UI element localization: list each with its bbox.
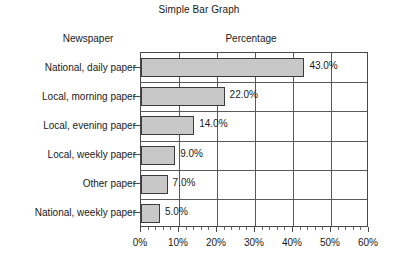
category-axis-tick xyxy=(133,154,140,155)
category-axis-tick xyxy=(133,183,140,184)
value-axis-tick xyxy=(140,227,141,232)
value-axis-minor-tick xyxy=(307,227,308,230)
bar-value-label: 43.0% xyxy=(309,60,337,71)
value-axis-tick xyxy=(368,227,369,232)
value-axis-minor-tick xyxy=(208,227,209,230)
category-label: Local, morning paper xyxy=(0,90,136,101)
value-axis-title: Percentage xyxy=(176,33,326,44)
value-axis-label: 60% xyxy=(348,237,388,248)
value-axis-minor-tick xyxy=(155,227,156,230)
value-axis-minor-tick xyxy=(338,227,339,230)
bar-value-label: 7.0% xyxy=(173,177,196,188)
category-axis-tick xyxy=(133,96,140,97)
value-axis-label: 50% xyxy=(310,237,350,248)
value-axis-minor-tick xyxy=(360,227,361,230)
value-axis-label: 30% xyxy=(234,237,274,248)
value-axis-minor-tick xyxy=(246,227,247,230)
category-label: Local, weekly paper xyxy=(0,149,136,160)
value-axis-minor-tick xyxy=(239,227,240,230)
bar-value-label: 14.0% xyxy=(199,118,227,129)
value-axis-minor-tick xyxy=(353,227,354,230)
bar[interactable] xyxy=(141,87,225,106)
bar-row: 14.0% xyxy=(141,111,367,140)
value-axis-minor-tick xyxy=(300,227,301,230)
value-axis-minor-tick xyxy=(277,227,278,230)
category-label: National, weekly paper xyxy=(0,207,136,218)
bar-row: 22.0% xyxy=(141,82,367,111)
category-axis-tick xyxy=(133,67,140,68)
value-axis-minor-tick xyxy=(201,227,202,230)
value-axis-tick xyxy=(254,227,255,232)
value-axis-label: 40% xyxy=(272,237,312,248)
bar[interactable] xyxy=(141,175,168,194)
bar-value-label: 9.0% xyxy=(180,148,203,159)
category-label: Local, evening paper xyxy=(0,119,136,130)
value-axis-minor-tick xyxy=(224,227,225,230)
category-label: Other paper xyxy=(0,178,136,189)
value-axis-minor-tick xyxy=(322,227,323,230)
value-axis-label: 10% xyxy=(158,237,198,248)
value-axis-minor-tick xyxy=(170,227,171,230)
value-axis-minor-tick xyxy=(284,227,285,230)
chart-title: Simple Bar Graph xyxy=(0,4,398,15)
value-axis-minor-tick xyxy=(231,227,232,230)
value-axis-label: 0% xyxy=(120,237,160,248)
value-axis-label: 20% xyxy=(196,237,236,248)
value-axis-tick xyxy=(330,227,331,232)
value-axis-minor-tick xyxy=(315,227,316,230)
value-axis-minor-tick xyxy=(148,227,149,230)
value-axis-minor-tick xyxy=(262,227,263,230)
bar-value-label: 5.0% xyxy=(165,206,188,217)
bar[interactable] xyxy=(141,58,304,77)
value-axis-minor-tick xyxy=(193,227,194,230)
category-axis-title: Newspaper xyxy=(0,33,176,44)
category-label: National, daily paper xyxy=(0,61,136,72)
category-axis-tick xyxy=(133,125,140,126)
value-axis-tick xyxy=(216,227,217,232)
value-axis-minor-tick xyxy=(269,227,270,230)
bar-value-label: 22.0% xyxy=(230,89,258,100)
bar-row: 7.0% xyxy=(141,170,367,199)
bar-chart-figure: Simple Bar Graph Newspaper Percentage 43… xyxy=(0,0,398,272)
value-axis-minor-tick xyxy=(163,227,164,230)
value-axis-tick xyxy=(178,227,179,232)
value-axis-minor-tick xyxy=(345,227,346,230)
bar-row: 43.0% xyxy=(141,53,367,82)
bar[interactable] xyxy=(141,204,160,223)
value-axis-tick xyxy=(292,227,293,232)
bar-row: 5.0% xyxy=(141,199,367,228)
plot-area: 43.0%22.0%14.0%9.0%7.0%5.0% xyxy=(140,52,368,227)
bar[interactable] xyxy=(141,146,175,165)
category-axis-tick xyxy=(133,212,140,213)
bar[interactable] xyxy=(141,116,194,135)
value-axis-minor-tick xyxy=(186,227,187,230)
bar-row: 9.0% xyxy=(141,141,367,170)
